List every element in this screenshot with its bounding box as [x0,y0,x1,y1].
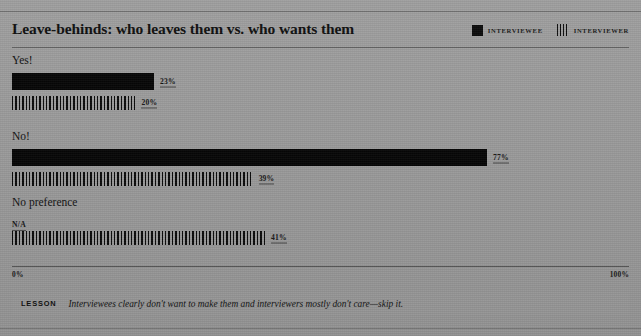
bar-value-yes-interviewer: 20% [141,98,157,109]
bar-no-interviewer [12,172,253,186]
bottom-divider [0,328,641,329]
page-title: Leave-behinds: who leaves them vs. who w… [12,20,354,38]
chart-legend: INTERVIEWEE INTERVIEWER [472,24,629,36]
lesson-text: Interviewees clearly don't want to make … [69,299,404,309]
bar-group-label-no-preference: No preference [12,196,629,209]
bar-group-no: No! 77% 39% [12,130,629,186]
bar-group-yes: Yes! 23% 20% [12,54,629,110]
solid-square-swatch-icon [472,25,483,36]
bar-yes-interviewer [12,96,135,110]
bar-group-label-yes: Yes! [12,54,629,67]
lesson-callout: LESSON Interviewees clearly don't want t… [12,292,629,315]
axis-tick-min: 0% [12,270,24,279]
chart-plot-area: Yes! 23% 20% No! 77% 39% No pref [12,54,629,266]
axis-line [12,266,629,267]
lesson-tag: LESSON [21,299,57,308]
x-axis: 0% 100% [12,266,629,286]
header-divider [12,47,629,48]
chart-page: Leave-behinds: who leaves them vs. who w… [0,0,641,336]
chart-header: Leave-behinds: who leaves them vs. who w… [12,20,629,46]
bar-yes-interviewee [12,73,154,90]
legend-item-interviewee: INTERVIEWEE [472,25,543,36]
bar-row-no-interviewee: 77% [12,149,629,166]
bar-value-no-interviewee: 77% [493,152,509,163]
bar-group-label-no: No! [12,130,629,143]
bar-row-yes-interviewer: 20% [12,96,629,110]
axis-tick-max: 100% [610,270,629,279]
bar-value-yes-interviewee: 23% [160,76,176,87]
bar-nopref-interviewer [12,231,265,245]
bar-row-nopref-interviewer: 41% [12,231,629,245]
bar-value-nopref-interviewee: N/A [12,220,26,231]
top-divider [0,11,641,12]
bar-group-no-preference: No preference N/A 41% [12,196,629,245]
bar-value-nopref-interviewer: 41% [271,233,287,244]
bar-row-yes-interviewee: 23% [12,73,629,90]
legend-label-interviewer: INTERVIEWER [574,27,629,34]
legend-label-interviewee: INTERVIEWEE [488,27,543,34]
bar-value-no-interviewer: 39% [259,174,275,185]
bar-row-no-interviewer: 39% [12,172,629,186]
legend-item-interviewer: INTERVIEWER [557,24,629,36]
bar-row-nopref-interviewee: N/A [12,213,629,224]
bar-no-interviewee [12,149,487,166]
hatched-square-swatch-icon [557,24,569,36]
